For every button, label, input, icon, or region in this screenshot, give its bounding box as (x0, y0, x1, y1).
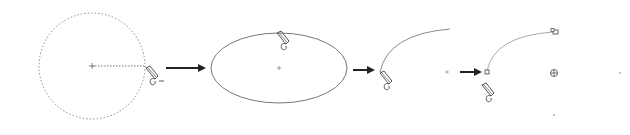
pencil-icon (380, 71, 392, 90)
point-marker (553, 114, 555, 116)
pencil-icon (277, 31, 289, 50)
diagram-canvas (0, 0, 630, 135)
step-arc-grips (482, 29, 621, 116)
arc-shape (380, 29, 450, 72)
diagram-svg (0, 0, 630, 135)
point-marker (619, 72, 621, 74)
pencil-icon (482, 83, 494, 102)
step-circle (39, 13, 164, 119)
center-cross (89, 63, 95, 69)
end-grip-icon (551, 29, 558, 35)
arc-shape (487, 32, 553, 71)
center-cross (277, 66, 281, 70)
step-ellipse (211, 31, 347, 103)
start-grip-icon (485, 70, 489, 74)
center-grip-icon (551, 70, 558, 77)
step-arc (380, 29, 450, 90)
center-cross (445, 70, 449, 74)
pencil-icon (146, 66, 158, 85)
